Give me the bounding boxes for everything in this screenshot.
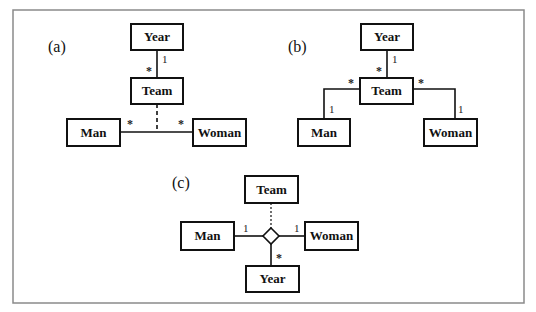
multiplicity-year: 1 xyxy=(392,53,398,65)
class-team-label: Team xyxy=(142,83,173,98)
multiplicity-man: * xyxy=(127,117,133,131)
multiplicity-team: * xyxy=(146,64,152,78)
class-year-label: Year xyxy=(144,29,170,44)
class-woman-label: Woman xyxy=(310,228,354,243)
team-woman-link xyxy=(413,89,455,119)
class-man-label: Man xyxy=(311,125,338,140)
multiplicity-man: 1 xyxy=(329,103,335,115)
multiplicity-man: 1 xyxy=(243,222,249,234)
class-woman-label: Woman xyxy=(429,125,473,140)
panel-c: (c) Team Man Woman Year 1 1 * xyxy=(172,174,358,292)
class-team-label: Team xyxy=(371,83,402,98)
panel-a-label: (a) xyxy=(48,38,66,56)
class-man-label: Man xyxy=(195,228,222,243)
multiplicity-team-man: * xyxy=(348,76,354,90)
panel-c-label: (c) xyxy=(172,174,190,192)
multiplicity-team-year: * xyxy=(376,64,382,78)
panel-a: (a) Year Team Man Woman 1 * * * xyxy=(48,24,246,146)
multiplicity-woman: 1 xyxy=(294,222,300,234)
uml-figure: (a) Year Team Man Woman 1 * * * (b) Year… xyxy=(0,0,536,312)
panel-b: (b) Year Team Man Woman 1 * * 1 * 1 xyxy=(288,24,477,146)
class-year-label: Year xyxy=(374,29,400,44)
multiplicity-woman: 1 xyxy=(458,103,464,115)
class-team-label: Team xyxy=(256,182,287,197)
class-man-label: Man xyxy=(81,125,108,140)
multiplicity-year: 1 xyxy=(162,53,168,65)
panel-b-label: (b) xyxy=(288,38,307,56)
multiplicity-team-woman: * xyxy=(418,76,424,90)
multiplicity-year: * xyxy=(276,251,282,265)
class-year-label: Year xyxy=(260,271,286,286)
multiplicity-woman: * xyxy=(178,117,184,131)
ternary-association-diamond xyxy=(263,228,279,244)
class-woman-label: Woman xyxy=(198,125,242,140)
figure-frame xyxy=(13,10,524,303)
